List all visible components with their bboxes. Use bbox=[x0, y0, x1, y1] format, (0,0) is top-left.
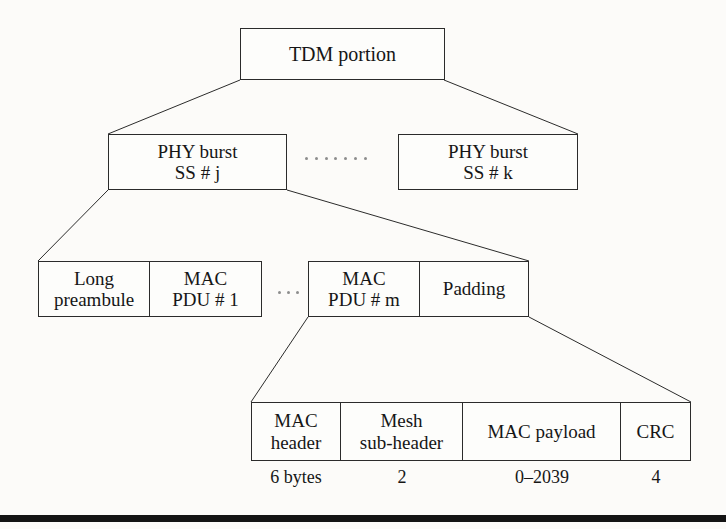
ellipsis-between-mac-pdus bbox=[278, 290, 299, 294]
ellipsis-between-phy-bursts bbox=[305, 156, 367, 160]
node-crc-line1: CRC bbox=[636, 421, 674, 442]
node-tdm-portion: TDM portion bbox=[240, 28, 445, 80]
node-phy-burst-k-line2: SS # k bbox=[463, 162, 513, 183]
page-edge-bar bbox=[0, 515, 726, 522]
node-mac-header-line2: header bbox=[271, 432, 322, 453]
node-mac-pdu-1-line2: PDU # 1 bbox=[172, 289, 239, 310]
node-phy-burst-j-line1: PHY burst bbox=[157, 141, 237, 162]
node-mac-payload: MAC payload bbox=[463, 402, 621, 461]
node-mac-pdu-m: MAC PDU # m bbox=[308, 261, 420, 317]
node-mesh-sub-header: Mesh sub-header bbox=[341, 402, 463, 461]
size-label-crc: 4 bbox=[621, 467, 691, 488]
node-mac-payload-line1: MAC payload bbox=[487, 421, 595, 442]
node-mac-pdu-m-line1: MAC bbox=[342, 268, 385, 289]
node-long-preambule: Long preambule bbox=[38, 261, 150, 317]
node-mesh-sub-header-line1: Mesh bbox=[380, 410, 422, 431]
node-crc: CRC bbox=[621, 402, 691, 461]
diagram-page: TDM portion PHY burst SS # j PHY burst S… bbox=[0, 0, 726, 529]
node-long-preambule-line2: preambule bbox=[54, 289, 134, 310]
node-phy-burst-k: PHY burst SS # k bbox=[398, 134, 578, 190]
node-tdm-portion-label: TDM portion bbox=[289, 43, 396, 65]
size-label-mac-payload: 0–2039 bbox=[463, 467, 621, 488]
node-phy-burst-j: PHY burst SS # j bbox=[108, 134, 287, 190]
node-phy-burst-k-line1: PHY burst bbox=[448, 141, 528, 162]
size-label-mac-header: 6 bytes bbox=[251, 467, 341, 488]
size-label-mesh-sub-header: 2 bbox=[341, 467, 463, 488]
node-mac-header-line1: MAC bbox=[274, 410, 317, 431]
node-mesh-sub-header-line2: sub-header bbox=[360, 432, 443, 453]
node-phy-burst-j-line2: SS # j bbox=[175, 162, 220, 183]
node-padding: Padding bbox=[420, 261, 529, 317]
node-mac-pdu-m-line2: PDU # m bbox=[328, 289, 400, 310]
node-mac-header: MAC header bbox=[251, 402, 341, 461]
node-mac-pdu-1: MAC PDU # 1 bbox=[150, 261, 262, 317]
node-mac-pdu-1-line1: MAC bbox=[184, 268, 227, 289]
node-long-preambule-line1: Long bbox=[74, 268, 114, 289]
node-padding-line1: Padding bbox=[443, 278, 505, 299]
